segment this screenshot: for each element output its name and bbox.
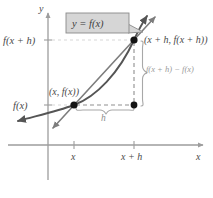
point-lower-label: (x, f(x)) [49, 87, 79, 97]
point-upper-marker [130, 36, 137, 43]
run-annotation-label: h [101, 114, 106, 124]
y-axis-label-f-x: f(x) [13, 101, 28, 112]
callout-label: y = f(x) [72, 18, 104, 29]
point-lower-marker [70, 101, 77, 108]
figure-canvas [0, 0, 213, 198]
x-axis-name: x [196, 152, 200, 162]
y-axis-name: y [39, 4, 43, 14]
x-tick-label-x-plus-h: x + h [121, 152, 142, 162]
y-axis-label-f-x-plus-h: f(x + h) [3, 36, 35, 47]
difference-quotient-figure: y = f(x) f(x + h) f(x) y x x x + h (x, f… [0, 0, 213, 198]
point-upper-label: (x + h, f(x + h)) [144, 35, 207, 45]
point-corner-marker [131, 102, 138, 109]
x-tick-label-x: x [71, 152, 75, 162]
rise-annotation-label: f(x + h) − f(x) [146, 65, 194, 74]
